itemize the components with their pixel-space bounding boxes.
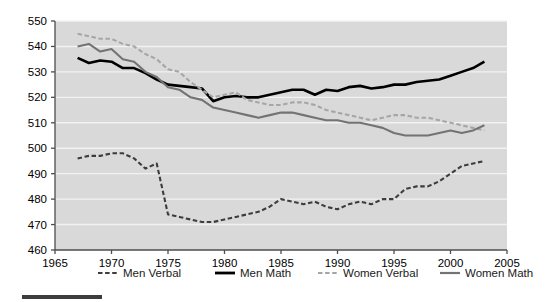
x-tick-label-1965: 1965 bbox=[42, 257, 68, 269]
y-tick-label-480: 480 bbox=[28, 193, 47, 205]
x-tick-label-1980: 1980 bbox=[212, 257, 238, 269]
plot-area-background bbox=[55, 21, 507, 250]
legend-label-men-math: Men Math bbox=[240, 267, 291, 279]
y-tick-label-510: 510 bbox=[28, 117, 47, 129]
x-tick-label-2000: 2000 bbox=[438, 257, 464, 269]
footer-accent-bar bbox=[22, 295, 102, 299]
y-tick-label-460: 460 bbox=[28, 244, 47, 256]
chart-footer-strip bbox=[0, 292, 559, 302]
legend-label-women-math: Women Math bbox=[465, 267, 533, 279]
y-tick-label-550: 550 bbox=[28, 15, 47, 27]
legend-label-men-verbal: Men Verbal bbox=[123, 267, 181, 279]
y-tick-label-540: 540 bbox=[28, 40, 47, 52]
x-tick-label-1970: 1970 bbox=[99, 257, 125, 269]
y-tick-label-520: 520 bbox=[28, 91, 47, 103]
sat-scores-line-chart: 4604704804905005105205305405501965197019… bbox=[0, 0, 559, 302]
y-tick-label-500: 500 bbox=[28, 142, 47, 154]
y-tick-label-470: 470 bbox=[28, 219, 47, 231]
chart-canvas: 4604704804905005105205305405501965197019… bbox=[0, 0, 559, 302]
legend-label-women-verbal: Women Verbal bbox=[343, 267, 418, 279]
y-tick-label-530: 530 bbox=[28, 66, 47, 78]
y-tick-label-490: 490 bbox=[28, 168, 47, 180]
